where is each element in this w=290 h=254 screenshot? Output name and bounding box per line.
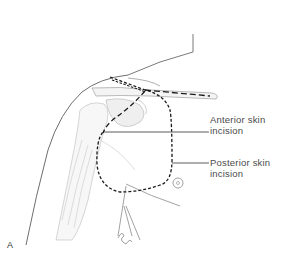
- axilla-lines: [118, 186, 140, 240]
- artist-signature: [118, 233, 132, 244]
- nipple-marker: [173, 178, 183, 188]
- posterior-label-line2: incision: [210, 168, 270, 179]
- posterior-label-line1: Posterior skin: [210, 157, 270, 168]
- neck-outline: [128, 34, 193, 75]
- panel-letter: A: [7, 240, 13, 250]
- humerus: [56, 103, 108, 240]
- anterior-label-line2: incision: [210, 125, 265, 136]
- glenoid: [106, 99, 144, 127]
- anterior-label-line1: Anterior skin: [210, 114, 265, 125]
- acromion-outline: [128, 78, 160, 86]
- anterior-incision-label: Anterior skin incision: [210, 114, 265, 136]
- posterior-incision-label: Posterior skin incision: [210, 157, 270, 179]
